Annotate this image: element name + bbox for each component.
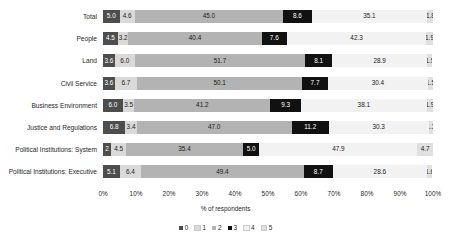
- legend-item-1[interactable]: 1: [194, 225, 206, 232]
- legend-item-2[interactable]: 2: [212, 225, 222, 231]
- bar-segment-0: 6.0: [103, 99, 123, 112]
- segment-value-label: 7.6: [270, 35, 279, 41]
- segment-value-label: 45.0: [203, 13, 215, 19]
- category-label: Land: [0, 54, 97, 68]
- legend-item-0[interactable]: 0: [179, 225, 189, 231]
- bar-segment-5: 1.5: [428, 77, 433, 90]
- bar-segment-5: 1.3: [429, 121, 433, 134]
- chart-row: Civil Service3.66.750.17.730.41.5: [0, 77, 451, 99]
- segment-value-label: 28.9: [373, 58, 385, 64]
- segment-value-label: 5.0: [107, 13, 116, 19]
- legend-item-4[interactable]: 4: [243, 225, 255, 232]
- legend-swatch-icon: [261, 225, 268, 232]
- segment-value-label: 6.8: [110, 124, 119, 130]
- segment-value-label: 6.0: [120, 58, 129, 64]
- segment-value-label: 3.4: [127, 124, 136, 130]
- legend-label: 5: [269, 225, 273, 231]
- bar-segment-2: 35.4: [126, 143, 243, 156]
- bar-segment-3: 8.6: [283, 10, 311, 23]
- bar-segment-4: 38.1: [301, 99, 427, 112]
- chart-row: Justice and Regulations6.83.447.011.230.…: [0, 121, 451, 143]
- bar-segment-4: 35.1: [312, 10, 428, 23]
- bar-segment-0: 5.1: [103, 165, 120, 178]
- stacked-bar: 6.03.541.29.338.11.9: [103, 99, 433, 112]
- bar-segment-0: 3.6: [103, 54, 115, 67]
- category-label: Business Environment: [0, 99, 97, 113]
- segment-value-label: 3.5: [124, 102, 133, 108]
- legend-label: 4: [251, 225, 255, 231]
- stacked-bar: 4.53.240.47.642.31.9: [103, 32, 433, 45]
- x-axis-tick: 50%: [262, 190, 275, 197]
- x-axis-tick: 100%: [425, 190, 441, 197]
- bar-segment-1: 3.2: [118, 32, 129, 45]
- bar-segment-1: 6.4: [120, 165, 141, 178]
- bar-segment-2: 49.4: [141, 165, 304, 178]
- segment-value-label: 1.9: [426, 35, 432, 41]
- segment-value-label: 4.5: [114, 146, 123, 152]
- segment-value-label: 1.5: [428, 80, 433, 86]
- segment-value-label: 41.2: [196, 102, 208, 108]
- legend-label: 3: [234, 225, 238, 231]
- x-axis-label: % of respondents: [0, 205, 451, 212]
- x-axis-tick: 90%: [394, 190, 407, 197]
- segment-value-label: 11.2: [304, 124, 316, 130]
- segment-value-label: 51.7: [214, 58, 226, 64]
- bar-segment-1: 3.5: [123, 99, 135, 112]
- segment-value-label: 4.7: [421, 146, 430, 152]
- legend-item-5[interactable]: 5: [261, 225, 273, 232]
- legend-swatch-icon: [243, 225, 250, 232]
- segment-value-label: 3.6: [104, 58, 113, 64]
- bar-segment-0: 5.0: [103, 10, 120, 23]
- legend-swatch-icon: [194, 225, 201, 232]
- bar-segment-0: 3.6: [103, 77, 115, 90]
- chart-row: Political Institutions: System24.535.45.…: [0, 143, 451, 165]
- segment-value-label: 30.4: [372, 80, 384, 86]
- legend-label: 1: [202, 225, 206, 231]
- bar-segment-5: 4.7: [417, 143, 433, 156]
- stacked-bar: 24.535.45.047.94.7: [103, 143, 433, 156]
- bar-segment-1: 3.4: [125, 121, 136, 134]
- bar-segment-3: 7.7: [302, 77, 327, 90]
- segment-value-label: 4.5: [106, 35, 115, 41]
- legend-swatch-icon: [212, 226, 217, 231]
- x-axis-tick: 20%: [163, 190, 176, 197]
- category-label: Justice and Regulations: [0, 121, 97, 135]
- segment-value-label: 1.3: [429, 124, 433, 130]
- bar-segment-3: 8.1: [305, 54, 332, 67]
- segment-value-label: 35.4: [178, 146, 190, 152]
- segment-value-label: 4.6: [123, 13, 132, 19]
- chart-row: Business Environment6.03.541.29.338.11.9: [0, 99, 451, 121]
- x-axis: 0%10%20%30%40%50%60%70%80%90%100%: [103, 190, 433, 202]
- stacked-bar: 6.83.447.011.230.31.3: [103, 121, 433, 134]
- chart-row: Political Institutions: Executive5.16.44…: [0, 165, 451, 187]
- segment-value-label: 7.7: [311, 80, 320, 86]
- legend-swatch-icon: [228, 226, 233, 231]
- bar-segment-2: 51.7: [135, 54, 306, 67]
- segment-value-label: 6.0: [108, 102, 117, 108]
- segment-value-label: 50.1: [213, 80, 225, 86]
- segment-value-label: 47.9: [332, 146, 344, 152]
- segment-value-label: 1.9: [427, 102, 433, 108]
- bar-segment-5: 1.5: [427, 54, 432, 67]
- segment-value-label: 3.2: [119, 35, 128, 41]
- category-label: Total: [0, 10, 97, 24]
- x-axis-tick: 40%: [229, 190, 242, 197]
- bar-segment-3: 11.2: [292, 121, 329, 134]
- bar-segment-2: 41.2: [134, 99, 270, 112]
- bar-segment-3: 9.3: [270, 99, 301, 112]
- segment-value-label: 30.3: [372, 124, 384, 130]
- bar-segment-1: 6.7: [115, 77, 137, 90]
- bar-segment-0: 2: [103, 143, 111, 156]
- bar-segment-2: 40.4: [128, 32, 261, 45]
- bar-segment-4: 30.4: [328, 77, 428, 90]
- category-label: Civil Service: [0, 77, 97, 91]
- bar-segment-4: 42.3: [287, 32, 427, 45]
- stacked-bar-chart: Total5.04.645.08.635.11.8People4.53.240.…: [0, 0, 451, 238]
- segment-value-label: 1.5: [427, 58, 432, 64]
- bar-segment-5: 1.9: [427, 99, 433, 112]
- bar-segment-1: 6.0: [115, 54, 135, 67]
- legend-item-3[interactable]: 3: [228, 225, 238, 231]
- legend-label: 0: [185, 225, 189, 231]
- chart-row: Total5.04.645.08.635.11.8: [0, 10, 451, 32]
- x-axis-tick: 30%: [196, 190, 209, 197]
